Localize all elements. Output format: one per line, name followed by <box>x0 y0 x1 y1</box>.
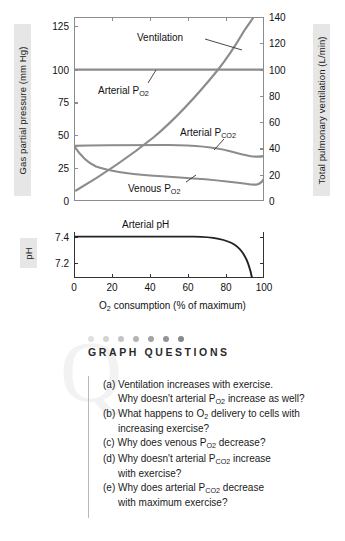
x-tick-40: 40 <box>144 282 155 293</box>
question-b-line2: increasing exercise? <box>118 423 209 434</box>
curve-ventilation <box>76 18 253 191</box>
question-b-line1-sub: 2 <box>204 412 208 421</box>
series-label-arterial-po2: Arterial PO2 <box>98 85 149 96</box>
y-tick-right-80: 80 <box>269 90 280 101</box>
question-item-b: (b) What happens to O2 delivery to cells… <box>103 407 338 435</box>
y-tick-left-50: 50 <box>58 130 69 141</box>
series-label-arterial-ph: Arterial pH <box>122 219 169 230</box>
question-e-line2: with maximum exercise? <box>118 497 227 508</box>
chart-curves <box>74 17 264 201</box>
decorative-dot <box>88 336 94 342</box>
question-a-line2-sub: O2 <box>216 397 226 406</box>
series-label-venous-po2: Venous PO2 <box>128 183 180 194</box>
x-tick-60: 60 <box>182 282 193 293</box>
question-b-line1-pre: What happens to O <box>118 408 204 419</box>
curve-arterial-pco2 <box>74 145 264 157</box>
series-label-venous-po2-sub: O2 <box>171 187 181 196</box>
decorative-dot <box>103 336 109 342</box>
question-e-line1-sub: CO2 <box>205 486 220 495</box>
question-e-line1-pre: Why does arterial P <box>118 482 205 493</box>
question-d-line2: with exercise? <box>118 468 181 479</box>
x-tick-80: 80 <box>220 282 231 293</box>
ph-tick-7-2: 7.2 <box>55 257 69 268</box>
question-item-e: (e) Why does arterial PCO2 decrease with… <box>103 481 338 509</box>
x-tick-100: 100 <box>256 282 273 293</box>
decorative-dot <box>133 336 139 342</box>
y-axis-title-right-text: Total pulmonary ventilation (L/min) <box>316 36 327 184</box>
question-a-line2-pre: Why doesn't arterial P <box>118 393 216 404</box>
y-axis-title-right: Total pulmonary ventilation (L/min) <box>313 24 330 196</box>
question-d-line1-pre: Why doesn't arterial P <box>118 453 216 464</box>
x-axis-title-pre: O <box>99 300 107 311</box>
y-axis-title-ph: pH <box>20 238 37 268</box>
series-label-arterial-pco2: Arterial PCO2 <box>180 127 236 138</box>
decorative-dot-row <box>88 336 338 342</box>
series-label-arterial-pco2-sub: CO2 <box>221 131 236 140</box>
series-label-arterial-po2-text: Arterial P <box>98 85 139 96</box>
series-label-venous-po2-text: Venous P <box>128 183 171 194</box>
question-d-line1-sub: CO2 <box>216 457 231 466</box>
ph-curve-svg <box>74 232 264 278</box>
y-tick-left-125: 125 <box>52 20 69 31</box>
decorative-dot <box>118 336 124 342</box>
question-c-line1-sub: O2 <box>206 441 216 450</box>
x-tick-0: 0 <box>71 282 77 293</box>
y-tick-right-60: 60 <box>269 117 280 128</box>
question-item-c: (c) Why does venous PO2 decrease? <box>103 436 338 451</box>
gas-ventilation-chart: 125 100 75 50 25 0 140 120 100 80 60 40 … <box>74 17 264 201</box>
y-axis-title-ph-text: pH <box>23 247 34 259</box>
y-tick-right-140: 140 <box>269 12 286 23</box>
decorative-dot <box>163 336 169 342</box>
series-label-arterial-po2-sub: O2 <box>139 89 149 98</box>
physiology-figure: Q Gas partial pressure (mm Hg) Total pul… <box>0 0 345 541</box>
graph-questions-heading: GRAPH QUESTIONS <box>88 346 338 358</box>
y-axis-title-left: Gas partial pressure (mm Hg) <box>14 24 31 196</box>
x-axis-title: O2 consumption (% of maximum) <box>0 300 345 311</box>
series-label-arterial-pco2-text: Arterial P <box>180 127 221 138</box>
y-axis-title-left-text: Gas partial pressure (mm Hg) <box>17 46 28 174</box>
question-label-c: (c) <box>103 437 115 448</box>
question-label-d: (d) <box>103 453 115 464</box>
arterial-ph-chart: 7.4 7.2 Arterial pH 0 20 40 60 80 100 <box>74 232 264 278</box>
x-axis-title-post: consumption (% of maximum) <box>111 300 246 311</box>
question-c-line1-pre: Why does venous P <box>117 437 206 448</box>
y-tick-left-0: 0 <box>63 196 69 207</box>
series-label-ventilation: Ventilation <box>137 32 183 43</box>
question-e-line1-post: decrease <box>220 482 264 493</box>
decorative-dot <box>148 336 154 342</box>
x-axis-title-sub: 2 <box>107 304 111 313</box>
y-tick-right-100: 100 <box>269 64 286 75</box>
question-item-a: (a) Ventilation increases with exercise.… <box>103 378 338 406</box>
y-tick-left-100: 100 <box>52 64 69 75</box>
y-tick-right-0: 0 <box>269 196 275 207</box>
question-a-line2-post: increase as well? <box>225 393 304 404</box>
question-label-b: (b) <box>103 408 115 419</box>
decorative-dot <box>178 336 184 342</box>
graph-questions-list: (a) Ventilation increases with exercise.… <box>88 376 338 518</box>
curve-arterial-ph <box>75 237 252 278</box>
y-tick-right-120: 120 <box>269 38 286 49</box>
question-label-a: (a) <box>103 379 115 390</box>
y-tick-left-75: 75 <box>58 97 69 108</box>
graph-questions-block: GRAPH QUESTIONS (a) Ventilation increase… <box>76 336 338 518</box>
question-d-line1-post: increase <box>230 453 271 464</box>
question-c-line1-post: decrease? <box>216 437 265 448</box>
x-tick-20: 20 <box>106 282 117 293</box>
question-b-line1-post: delivery to cells with <box>208 408 300 419</box>
y-tick-right-40: 40 <box>269 143 280 154</box>
ph-tick-7-4: 7.4 <box>55 231 69 242</box>
y-tick-left-25: 25 <box>58 163 69 174</box>
question-item-d: (d) Why doesn't arterial PCO2 increase w… <box>103 452 338 480</box>
y-tick-right-20: 20 <box>269 169 280 180</box>
question-a-line1: Ventilation increases with exercise. <box>118 379 273 390</box>
question-label-e: (e) <box>103 482 115 493</box>
